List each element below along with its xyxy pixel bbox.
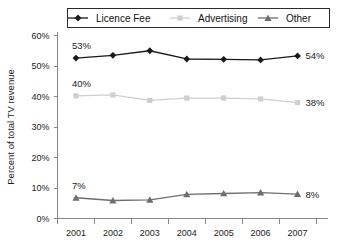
x-tick-label: 2005	[214, 228, 234, 238]
square-marker	[184, 95, 189, 100]
square-marker	[177, 15, 182, 20]
legend-item-label: Advertising	[198, 13, 247, 24]
y-tick-label: 30%	[31, 122, 49, 132]
y-tick-label: 60%	[31, 31, 49, 41]
legend-item-label: Other	[286, 13, 312, 24]
diamond-marker	[183, 56, 190, 63]
square-marker	[147, 98, 152, 103]
data-label: 54%	[306, 50, 326, 61]
square-marker	[110, 92, 115, 97]
data-label: 53%	[72, 40, 92, 51]
y-axis-tick-labels: 0%10%20%30%40%50%60%	[31, 31, 57, 224]
x-axis-tick-labels: 2001200220032004200520062007	[58, 219, 317, 238]
legend-item-label: Licence Fee	[96, 13, 151, 24]
data-label: 40%	[72, 78, 92, 89]
chart-legend: Licence FeeAdvertisingOther	[68, 9, 330, 28]
square-marker	[258, 96, 263, 101]
chart-series	[72, 47, 301, 203]
diamond-marker	[220, 56, 227, 63]
y-tick-label: 20%	[31, 153, 49, 163]
data-label: 8%	[306, 189, 320, 200]
diamond-marker	[73, 55, 80, 62]
y-axis-title-label: Percent of total TV revenue	[5, 69, 16, 184]
revenue-share-line-chart: Licence FeeAdvertisingOther Percent of t…	[0, 0, 337, 251]
series-other	[72, 189, 301, 203]
square-marker	[221, 95, 226, 100]
x-tick-label: 2001	[66, 228, 86, 238]
diamond-marker	[294, 53, 301, 60]
y-tick-label: 40%	[31, 92, 49, 102]
x-tick-label: 2004	[177, 228, 197, 238]
y-tick-label: 50%	[31, 61, 49, 71]
diamond-marker	[146, 47, 153, 54]
square-marker	[295, 100, 300, 105]
series-licence-fee	[73, 47, 301, 63]
diamond-marker	[109, 52, 116, 59]
series-advertising	[73, 92, 300, 105]
data-label: 38%	[306, 97, 326, 108]
diamond-marker	[257, 57, 264, 64]
square-marker	[73, 93, 78, 98]
x-tick-label: 2002	[103, 228, 123, 238]
y-tick-label: 0%	[36, 214, 49, 224]
chart-canvas: Licence FeeAdvertisingOther Percent of t…	[0, 0, 337, 251]
y-axis-title: Percent of total TV revenue	[5, 69, 16, 184]
chart-annotations: 53%54%40%38%7%8%	[72, 40, 325, 200]
x-tick-label: 2006	[251, 228, 271, 238]
x-tick-label: 2007	[288, 228, 308, 238]
x-tick-label: 2003	[140, 228, 160, 238]
y-tick-label: 10%	[31, 183, 49, 193]
data-label: 7%	[72, 180, 86, 191]
